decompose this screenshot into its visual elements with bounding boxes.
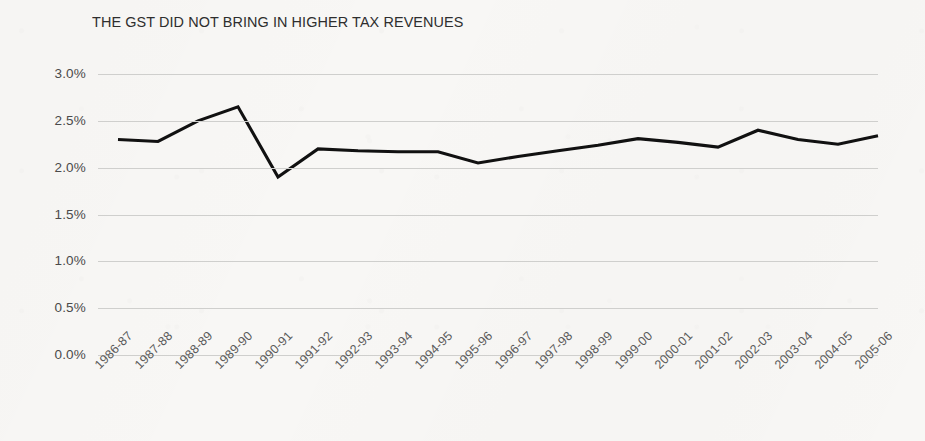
- y-axis-tick: 1.5%: [30, 207, 86, 223]
- gridline: [98, 215, 878, 216]
- gridline: [98, 121, 878, 122]
- gridline: [98, 168, 878, 169]
- gridline: [98, 355, 878, 356]
- plot-area: 3.0%2.5%2.0%1.5%1.0%0.5%0.0%1986-871987-…: [0, 0, 925, 441]
- gridline: [98, 308, 878, 309]
- y-axis-tick-label: 1.5%: [30, 207, 86, 222]
- gridline: [98, 261, 878, 262]
- y-axis-tick-label: 3.0%: [30, 66, 86, 81]
- y-axis-tick-label: 0.0%: [30, 347, 86, 362]
- data-series-path: [118, 107, 878, 177]
- y-axis-tick-label: 2.5%: [30, 113, 86, 128]
- y-axis-tick: 0.5%: [30, 300, 86, 316]
- y-axis-tick: 3.0%: [30, 66, 86, 82]
- y-axis-tick: 1.0%: [30, 253, 86, 269]
- y-axis-tick: 0.0%: [30, 347, 86, 363]
- y-axis-tick: 2.5%: [30, 113, 86, 129]
- y-axis-tick: 2.0%: [30, 160, 86, 176]
- y-axis-tick-label: 0.5%: [30, 300, 86, 315]
- data-series-line: [0, 0, 925, 441]
- y-axis-tick-label: 1.0%: [30, 253, 86, 268]
- line-chart-figure: THE GST DID NOT BRING IN HIGHER TAX REVE…: [0, 0, 925, 441]
- gridline: [98, 74, 878, 75]
- y-axis-tick-label: 2.0%: [30, 160, 86, 175]
